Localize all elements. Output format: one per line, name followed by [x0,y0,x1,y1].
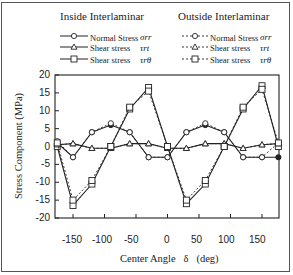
data-point-marker [89,130,94,135]
data-point-marker [54,140,60,146]
data-point-marker [240,104,246,110]
data-point-marker [184,130,189,135]
legend-marker [192,56,198,62]
data-point-marker [146,88,152,94]
data-point-marker [165,144,171,150]
data-point-marker [276,155,281,160]
data-point-marker [70,197,76,203]
legend-marker [192,44,198,49]
plot-area [0,0,293,275]
data-point-marker [241,155,246,160]
data-point-marker [203,121,208,126]
data-point-marker [108,121,113,126]
data-point-marker [259,86,265,92]
data-point-marker [259,155,264,160]
series-line [57,123,278,157]
data-point-marker [127,130,132,135]
data-point-marker [183,197,189,203]
data-point-marker [275,140,281,146]
data-point-marker [222,130,227,135]
legend-marker [71,56,77,62]
data-point-marker [108,144,114,150]
legend-marker [192,33,197,38]
data-point-marker [165,155,170,160]
data-point-marker [202,177,208,183]
data-point-marker [89,177,95,183]
legend-marker [71,33,76,38]
data-point-marker [146,155,151,160]
data-point-marker [70,155,75,160]
data-point-marker [221,144,227,150]
data-point-marker [127,104,133,110]
